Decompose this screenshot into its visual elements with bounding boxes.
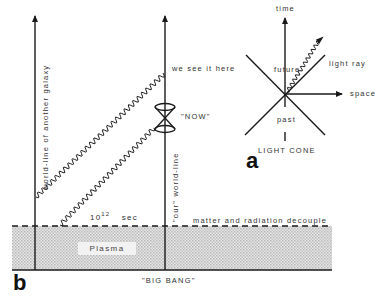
time-label: 1012 sec xyxy=(90,211,138,222)
our-worldline-label: "our" world-line xyxy=(171,152,180,222)
now-label: "NOW" xyxy=(181,112,211,121)
big-bang-label: "BIG BANG" xyxy=(142,276,196,285)
we-see-it-here-label: we see it here xyxy=(172,64,236,73)
cosmology-diagram xyxy=(0,0,385,299)
time-exponent: 12 xyxy=(101,211,110,217)
plasma-label: Plasma xyxy=(78,242,136,255)
decouple-label: matter and radiation decouple xyxy=(193,216,327,225)
light-ray-label: light ray xyxy=(329,59,366,68)
time-axis-label: time xyxy=(276,4,295,13)
future-label: future xyxy=(274,65,300,74)
panel-label-a: a xyxy=(246,150,258,172)
plasma-region xyxy=(12,226,332,270)
space-axis-label: space xyxy=(350,89,376,98)
time-unit: sec xyxy=(122,213,138,222)
galaxy-worldline-label: world-line of another galaxy xyxy=(41,65,50,190)
past-label: past xyxy=(277,115,296,124)
time-base: 10 xyxy=(90,213,101,222)
panel-label-b: b xyxy=(13,272,26,294)
light-cone-title: LIGHT CONE xyxy=(258,146,316,155)
